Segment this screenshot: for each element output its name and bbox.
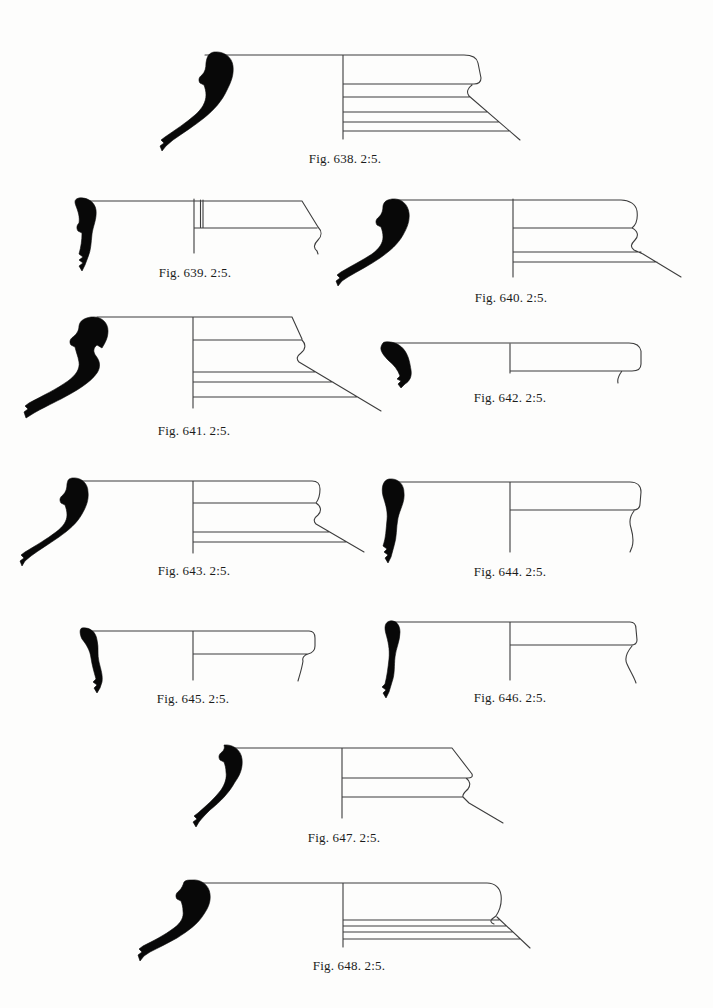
figure-caption-640: Fig. 640. 2:5.: [475, 291, 548, 304]
figure-648-drawing: [138, 880, 530, 961]
figure-647-drawing: [193, 745, 503, 827]
figure-caption-646: Fig. 646. 2:5.: [474, 691, 547, 704]
figure-caption-648: Fig. 648. 2:5.: [313, 959, 386, 972]
section-profile: [138, 880, 210, 961]
rim-outline: [80, 199, 321, 254]
section-profile: [75, 198, 96, 271]
section-profile: [24, 317, 108, 418]
rim-outline: [88, 631, 315, 681]
figure-caption-642: Fig. 642. 2:5.: [474, 391, 547, 404]
figure-644-drawing: [382, 479, 641, 563]
section-profile: [336, 199, 409, 286]
section-profile: [381, 342, 411, 388]
section-profile: [382, 479, 404, 563]
figure-caption-644: Fig. 644. 2:5.: [474, 565, 547, 578]
figure-645-drawing: [80, 628, 315, 693]
rim-outline: [394, 622, 637, 683]
figure-638-drawing: [160, 52, 520, 151]
figure-639-drawing: [75, 198, 321, 271]
rim-outline: [200, 883, 530, 948]
figure-641-drawing: [24, 317, 381, 418]
figure-640-drawing: [336, 199, 681, 286]
rim-outline: [230, 748, 503, 823]
rim-outline: [205, 55, 520, 140]
figure-643-drawing: [20, 478, 364, 566]
rim-outline: [80, 481, 364, 553]
pottery-plate-page: Fig. 638. 2:5. Fig. 639. 2:5. Fig. 640. …: [0, 0, 713, 1008]
rim-outline: [97, 317, 381, 411]
rim-outline: [390, 343, 641, 383]
section-profile: [160, 52, 233, 151]
figure-caption-643: Fig. 643. 2:5.: [158, 564, 231, 577]
figure-caption-645: Fig. 645. 2:5.: [157, 692, 230, 705]
section-profile: [382, 621, 400, 698]
rim-outline: [397, 199, 681, 277]
rim-outline: [392, 482, 641, 552]
section-profile: [193, 745, 242, 827]
figure-caption-641: Fig. 641. 2:5.: [158, 424, 231, 437]
figure-caption-647: Fig. 647. 2:5.: [308, 831, 381, 844]
figure-caption-638: Fig. 638. 2:5.: [309, 152, 382, 165]
figure-646-drawing: [382, 621, 637, 698]
figure-642-drawing: [381, 342, 641, 388]
section-profile: [20, 478, 88, 566]
section-profile: [80, 628, 102, 693]
figure-caption-639: Fig. 639. 2:5.: [159, 266, 232, 279]
